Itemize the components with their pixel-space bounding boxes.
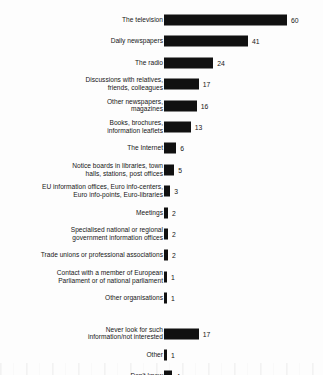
bar <box>164 122 191 133</box>
bar-row-label: The Internet <box>0 144 163 152</box>
bar-row-label: Never look for such information/not inte… <box>0 326 163 342</box>
bar-row-label: Other organisations <box>0 294 163 302</box>
bar-row: Discussions with relatives, friends, col… <box>0 74 323 94</box>
bar-row: Meetings2 <box>0 203 323 223</box>
bar-value-label: 3 <box>174 188 178 195</box>
bar-row-label: Other <box>0 351 163 359</box>
bar <box>164 229 168 240</box>
bar-value-label: 24 <box>217 59 225 66</box>
bar-row-label: Contact with a member of European Parlia… <box>0 269 163 285</box>
bar <box>164 57 213 68</box>
bar-value-label: 1 <box>171 273 175 280</box>
bar-value-label: 1 <box>171 352 175 359</box>
bar-row-label: Other newspapers, magazines <box>0 98 163 114</box>
bar-row: Specialised national or regional governm… <box>0 224 323 244</box>
bar-row: The television60 <box>0 10 323 30</box>
bar-row: Don't know4 <box>0 366 323 375</box>
bar-row: The Internet6 <box>0 138 323 158</box>
bar-row-label: The television <box>0 16 163 24</box>
bar-row-label: Notice boards in libraries, town halls, … <box>0 162 163 178</box>
bar <box>164 79 199 90</box>
bar-row: Other newspapers, magazines16 <box>0 96 323 116</box>
bar-value-label: 16 <box>201 102 209 109</box>
bar-row-label: Meetings <box>0 209 163 217</box>
bar-value-label: 17 <box>203 81 211 88</box>
bar-row: Contact with a member of European Parlia… <box>0 267 323 287</box>
bar <box>164 328 199 339</box>
bar-row: Notice boards in libraries, town halls, … <box>0 160 323 180</box>
bar <box>164 271 167 282</box>
bar-row-label: Specialised national or regional governm… <box>0 226 163 242</box>
bar-row: Trade unions or professional association… <box>0 245 323 265</box>
bar <box>164 143 176 154</box>
bar-row: EU information offices, Euro info-center… <box>0 181 323 201</box>
bar-row-label: The radio <box>0 59 163 67</box>
bar-value-label: 1 <box>171 295 175 302</box>
bar <box>164 36 248 47</box>
bar <box>164 250 168 261</box>
bar <box>164 100 197 111</box>
bar-row: The radio24 <box>0 53 323 73</box>
bar <box>164 350 167 361</box>
bar-row-label: EU information offices, Euro info-center… <box>0 183 163 199</box>
bar-value-label: 5 <box>178 166 182 173</box>
bar-value-label: 2 <box>172 252 176 259</box>
bar <box>164 293 167 304</box>
bar-value-label: 17 <box>203 330 211 337</box>
bar-value-label: 41 <box>252 38 260 45</box>
bar-row: Other1 <box>0 345 323 365</box>
bar <box>164 207 168 218</box>
bar-value-label: 2 <box>172 209 176 216</box>
bar-value-label: 60 <box>291 17 299 24</box>
bar-row: Never look for such information/not inte… <box>0 324 323 344</box>
bar-row-label: Trade unions or professional association… <box>0 251 163 259</box>
bar-value-label: 6 <box>180 145 184 152</box>
bar-row: Daily newspapers41 <box>0 31 323 51</box>
bar <box>164 15 287 26</box>
bar-row-label: Daily newspapers <box>0 37 163 45</box>
bar-row: Books, brochures, information leaflets13 <box>0 117 323 137</box>
bar-row-label: Books, brochures, information leaflets <box>0 119 163 135</box>
bar-row: Other organisations1 <box>0 288 323 308</box>
bar <box>164 186 170 197</box>
bar <box>164 371 172 375</box>
bar-row-label: Discussions with relatives, friends, col… <box>0 76 163 92</box>
bar <box>164 164 174 175</box>
bar-chart: The television60Daily newspapers41The ra… <box>0 0 323 375</box>
bar-value-label: 13 <box>195 124 203 131</box>
bar-value-label: 2 <box>172 231 176 238</box>
